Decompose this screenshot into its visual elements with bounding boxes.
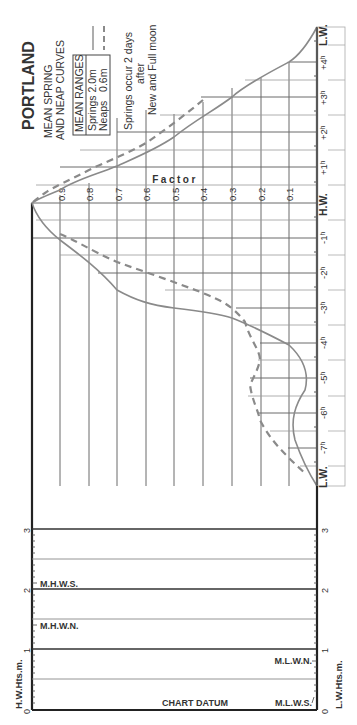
factor-axis-label: Factor xyxy=(152,174,198,185)
curve-grid xyxy=(32,62,317,710)
chart-title: PORTLAND xyxy=(20,41,37,130)
chart-subtitle-line2: AND NEAP CURVES xyxy=(54,40,66,140)
note-line3: New and Full moon xyxy=(146,24,158,115)
hw-heights-axis-label: H.W.Hts.m. xyxy=(13,659,24,709)
mhwn-label: M.H.W.N. xyxy=(40,621,79,631)
note-line1: Springs occur 2 days xyxy=(122,32,134,130)
note-line2: after xyxy=(134,62,146,84)
lw-heights-axis-label: L.W.Hts.m. xyxy=(333,660,344,709)
svg-text:+3ʰ: +3ʰ xyxy=(318,90,329,105)
mean-ranges-legend: MEAN RANGES Springs 2.0m Neaps 0.6m xyxy=(73,26,110,135)
mean-ranges-header: MEAN RANGES xyxy=(73,54,85,132)
chart-subtitle-line1: MEAN SPRING xyxy=(42,64,54,138)
svg-text:-3ʰ: -3ʰ xyxy=(318,302,329,314)
svg-text:1: 1 xyxy=(22,648,32,653)
label-lw-top: L.W. xyxy=(317,24,329,46)
svg-text:2: 2 xyxy=(320,588,330,593)
svg-text:0.6: 0.6 xyxy=(141,188,152,201)
svg-text:+2ʰ: +2ʰ xyxy=(318,125,329,140)
mlws-label: M.L.W.S. xyxy=(275,698,312,708)
factor-tick-labels: 0.9 0.8 0.7 0.6 0.5 0.4 0.3 0.2 0.1 xyxy=(56,188,295,201)
chart-datum-label: CHART DATUM xyxy=(162,698,228,708)
legend-neaps: Neaps 0.6m xyxy=(97,68,109,131)
svg-text:-1ʰ: -1ʰ xyxy=(318,232,329,244)
height-panel: 3 2 1 0 3 2 1 0 H.W.Hts.m. L.W.Hts.m. M.… xyxy=(13,486,344,714)
svg-text:-2ʰ: -2ʰ xyxy=(318,267,329,279)
svg-text:0.8: 0.8 xyxy=(84,188,95,201)
time-axis-labels: L.W. +4ʰ +3ʰ +2ʰ +1ʰ H.W. -1ʰ -2ʰ -3ʰ -4… xyxy=(317,24,329,488)
svg-text:1: 1 xyxy=(320,648,330,653)
svg-text:3: 3 xyxy=(22,528,32,533)
svg-text:0.2: 0.2 xyxy=(256,188,267,201)
svg-text:+4ʰ: +4ʰ xyxy=(318,55,329,70)
svg-text:0.4: 0.4 xyxy=(198,188,209,201)
svg-text:0.3: 0.3 xyxy=(227,188,238,201)
svg-text:-4ʰ: -4ʰ xyxy=(318,337,329,349)
svg-text:-5ʰ: -5ʰ xyxy=(318,372,329,384)
mhws-label: M.H.W.S. xyxy=(40,579,78,589)
svg-text:+1ʰ: +1ʰ xyxy=(318,160,329,175)
svg-text:0.1: 0.1 xyxy=(284,188,295,201)
svg-text:0.5: 0.5 xyxy=(170,188,181,201)
svg-text:0: 0 xyxy=(320,709,330,714)
svg-text:2: 2 xyxy=(22,588,32,593)
svg-text:0.7: 0.7 xyxy=(113,188,124,201)
svg-text:-6ʰ: -6ʰ xyxy=(318,407,329,419)
label-hw: H.W. xyxy=(317,193,329,216)
tidal-curve-chart: PORTLAND MEAN SPRING AND NEAP CURVES MEA… xyxy=(0,0,357,725)
mlwn-label: M.L.W.N. xyxy=(275,656,313,666)
neaps-curve xyxy=(32,100,307,475)
label-lw-bottom: L.W. xyxy=(317,466,329,488)
svg-text:3: 3 xyxy=(320,528,330,533)
svg-text:-7ʰ: -7ʰ xyxy=(318,442,329,454)
